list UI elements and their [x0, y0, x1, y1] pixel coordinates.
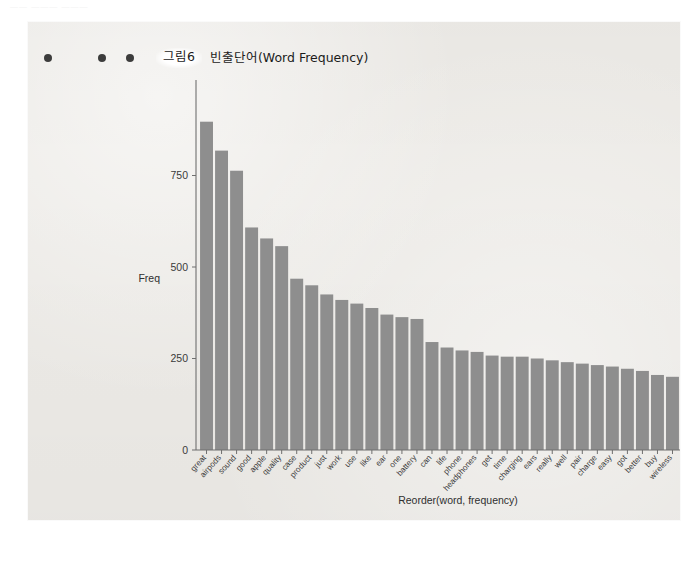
bar	[531, 359, 544, 451]
bar	[621, 369, 634, 450]
chart-svg: 0250500750 greatairpodssoundgoodapplequa…	[28, 22, 680, 520]
word-frequency-bar-chart: 0250500750 greatairpodssoundgoodapplequa…	[28, 22, 680, 520]
y-tick-label: 0	[182, 444, 188, 456]
bar	[666, 377, 679, 450]
bar	[426, 342, 439, 450]
bar	[350, 304, 363, 450]
x-axis: greatairpodssoundgoodapplequalitycasepro…	[189, 450, 680, 493]
x-tick-label: better	[623, 453, 644, 475]
screenshot-root: —— ——— ——— 그림6 빈출단어(Word Frequency) 0250…	[0, 0, 699, 561]
bar	[516, 357, 529, 450]
bar	[365, 308, 378, 450]
bar	[215, 151, 228, 450]
bar	[501, 357, 514, 450]
bar	[395, 317, 408, 450]
x-axis-title: Reorder(word, frequency)	[398, 494, 518, 506]
bar	[636, 371, 649, 450]
bullet-dot-1	[44, 54, 52, 62]
x-tick-label: easy	[596, 453, 615, 473]
figure-caption: 빈출단어(Word Frequency)	[210, 52, 368, 65]
figure-header: 그림6 빈출단어(Word Frequency)	[44, 46, 368, 70]
x-tick-label: like	[358, 453, 373, 468]
bar	[486, 356, 499, 450]
bar	[200, 122, 213, 450]
x-tick-label: well	[552, 453, 569, 470]
bar	[651, 375, 664, 450]
y-axis: 0250500750	[170, 80, 196, 456]
x-tick-label: ear	[374, 453, 389, 468]
bars-group	[200, 122, 679, 450]
faint-header-text: —— ——— ———	[10, 2, 88, 11]
bar	[320, 294, 333, 450]
bullet-dot-2	[98, 54, 106, 62]
y-tick-label: 250	[170, 352, 188, 364]
y-tick-label: 750	[170, 169, 188, 181]
x-tick-label: can	[418, 453, 434, 469]
y-tick-label: 500	[170, 261, 188, 273]
bar	[591, 365, 604, 450]
figure-number-label: 그림6	[156, 48, 202, 68]
bar	[335, 300, 348, 450]
bullet-dot-3	[126, 54, 134, 62]
x-tick-label: work	[324, 453, 344, 473]
bar	[471, 352, 484, 450]
y-axis-title: Freq	[138, 272, 160, 284]
bar	[380, 315, 393, 450]
bar	[245, 227, 258, 450]
bar	[260, 238, 273, 450]
bar	[441, 348, 454, 450]
bar	[606, 367, 619, 450]
bar	[410, 319, 423, 450]
bar	[305, 285, 318, 450]
bar	[546, 360, 559, 450]
bar	[290, 279, 303, 450]
x-tick-label: really	[534, 453, 554, 474]
x-tick-label: use	[343, 453, 359, 469]
bar	[275, 246, 288, 450]
bar	[230, 171, 243, 450]
bar	[576, 364, 589, 450]
bar	[456, 350, 469, 450]
bar	[561, 362, 574, 450]
